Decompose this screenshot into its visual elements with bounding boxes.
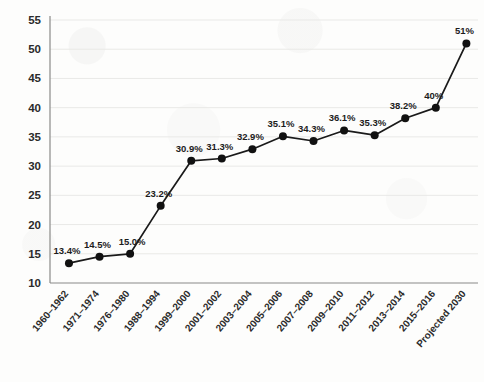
data-point-label: 35.3%	[359, 117, 386, 128]
data-point[interactable]	[126, 250, 134, 258]
data-point-label: 32.9%	[237, 131, 264, 142]
y-tick-label: 35	[28, 131, 41, 143]
y-tick-label: 10	[28, 277, 41, 289]
gridline-group	[50, 20, 478, 254]
data-point-label: 30.9%	[176, 143, 203, 154]
data-point-label: 15.0%	[119, 236, 146, 247]
data-point[interactable]	[218, 155, 226, 163]
y-tick-label-group: 10152025303540455055	[28, 14, 41, 289]
series-path-group	[69, 43, 466, 263]
y-tick-label: 50	[28, 43, 41, 55]
data-point[interactable]	[279, 132, 287, 140]
data-point[interactable]	[340, 126, 348, 134]
data-point-label: 34.3%	[298, 123, 325, 134]
chart-container: 10152025303540455055 1960–19621971–19741…	[0, 0, 484, 382]
y-tick-label: 25	[28, 189, 41, 201]
y-tick-label: 45	[28, 72, 41, 84]
y-tick-label: 30	[28, 160, 41, 172]
data-point[interactable]	[187, 157, 195, 165]
data-point-label: 40%	[424, 90, 444, 101]
y-tick-label: 40	[28, 102, 41, 114]
data-point-label: 14.5%	[84, 239, 111, 250]
data-point-label: 13.4%	[53, 245, 80, 256]
y-tick-label: 55	[28, 14, 41, 26]
y-tick-label: 20	[28, 219, 41, 231]
line-chart: 10152025303540455055 1960–19621971–19741…	[0, 0, 484, 382]
y-tick-label: 15	[28, 248, 41, 260]
data-point-label: 51%	[455, 25, 475, 36]
series-line-prevalence	[69, 43, 466, 263]
data-point[interactable]	[157, 202, 165, 210]
data-point[interactable]	[248, 145, 256, 153]
data-point-label: 36.1%	[329, 112, 356, 123]
data-point[interactable]	[432, 104, 440, 112]
data-point[interactable]	[310, 137, 318, 145]
data-point-label: 35.1%	[267, 118, 294, 129]
data-point[interactable]	[401, 114, 409, 122]
data-label-group: 13.4%14.5%15.0%23.2%30.9%31.3%32.9%35.1%…	[53, 25, 474, 256]
data-point-label: 23.2%	[145, 188, 172, 199]
data-point-group	[65, 39, 470, 267]
data-point-label: 31.3%	[206, 141, 233, 152]
data-point[interactable]	[65, 259, 73, 267]
data-point[interactable]	[462, 39, 470, 47]
data-point[interactable]	[371, 131, 379, 139]
axis-group	[50, 16, 478, 283]
x-tick-label-group: 1960–19621971–19741976–19801988–19941999…	[30, 288, 468, 349]
data-point-label: 38.2%	[390, 100, 417, 111]
data-point[interactable]	[96, 253, 104, 261]
